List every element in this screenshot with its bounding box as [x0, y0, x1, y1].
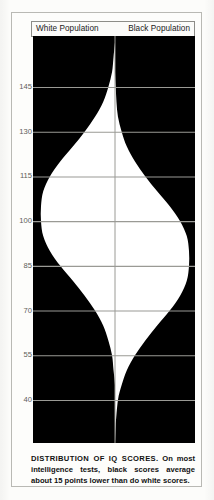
y-tick-label-55: 55 [24, 351, 32, 359]
y-axis: 14513011510085705540 [11, 36, 33, 443]
figure-root: White Population Black Population 145130… [0, 0, 214, 500]
distribution-curve-white-population [41, 36, 115, 443]
y-tick-label-130: 130 [19, 128, 32, 136]
y-tick-label-70: 70 [24, 307, 32, 315]
figure-caption: DISTRIBUTION OF IQ SCORES. On most intel… [31, 453, 195, 487]
legend-label-white-population: White Population [32, 25, 99, 33]
distribution-chart-svg [33, 36, 195, 443]
y-tick-label-40: 40 [24, 396, 32, 404]
y-tick-label-85: 85 [24, 262, 32, 270]
legend-label-black-population: Black Population [128, 25, 194, 33]
chart-plot-area [33, 36, 195, 443]
y-tick-label-115: 115 [20, 173, 32, 181]
y-tick-label-100: 100 [19, 217, 32, 225]
chart-legend-header: White Population Black Population [31, 21, 195, 37]
y-tick-label-145: 145 [19, 83, 32, 91]
distribution-curve-black-population [115, 36, 189, 443]
caption-lead-text: DISTRIBUTION OF IQ SCORES. [31, 454, 158, 463]
